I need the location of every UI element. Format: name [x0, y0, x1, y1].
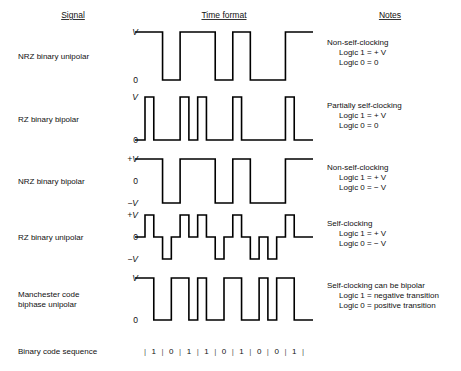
signal-name-nrz-binary-bipolar: NRZ binary bipolar — [18, 177, 85, 186]
bit-value: 0 — [257, 347, 262, 356]
note-rz-binary-unipolar-2: Logic 0 = − V — [339, 239, 387, 248]
note-rz-binary-bipolar-0: Partially self-clocking — [327, 101, 402, 110]
note-manchester-code-biphase-unipolar-0: Self-clocking can be bipolar — [327, 281, 425, 290]
note-manchester-code-biphase-unipolar-1: Logic 1 = negative transition — [339, 291, 439, 300]
bit-value: 1 — [292, 347, 297, 356]
bit-separator: | — [249, 347, 251, 356]
signal-name-manchester-code-biphase-unipolar: biphase unipolar — [18, 300, 77, 309]
bit-separator: | — [267, 347, 269, 356]
note-rz-binary-unipolar-0: Self-clocking — [327, 219, 372, 228]
signal-name-manchester-code-biphase-unipolar: Manchester code — [18, 290, 80, 299]
bit-separator: | — [284, 347, 286, 356]
bit-separator: | — [232, 347, 234, 356]
column-header-time-format: Time format — [201, 10, 247, 20]
note-rz-binary-bipolar-1: Logic 1 = + V — [339, 111, 387, 120]
level-label-manchester-code-biphase-unipolar-1: 0 — [133, 315, 138, 325]
bit-separator: | — [214, 347, 216, 356]
bit-separator: | — [144, 347, 146, 356]
signal-encoding-diagram: Signal Time format Notes NRZ binary unip… — [0, 0, 461, 371]
bit-value: 0 — [222, 347, 227, 356]
binary-code-sequence-label: Binary code sequence — [18, 347, 98, 356]
note-manchester-code-biphase-unipolar-2: Logic 0 = positive transition — [339, 301, 436, 310]
bit-separator: | — [162, 347, 164, 356]
note-nrz-binary-unipolar-2: Logic 0 = 0 — [339, 58, 379, 67]
level-label-rz-binary-unipolar-2: −V — [127, 254, 139, 264]
note-rz-binary-unipolar-1: Logic 1 = + V — [339, 229, 387, 238]
note-nrz-binary-bipolar-0: Non-self-clocking — [327, 163, 388, 172]
level-label-nrz-binary-bipolar-2: −V — [127, 198, 139, 208]
level-label-rz-binary-unipolar-0: +V — [127, 210, 139, 220]
bit-separator: | — [179, 347, 181, 356]
note-nrz-binary-unipolar-1: Logic 1 = + V — [339, 48, 387, 57]
bit-value: 1 — [239, 347, 244, 356]
bit-value: 0 — [274, 347, 279, 356]
signal-name-nrz-binary-unipolar: NRZ binary unipolar — [18, 52, 89, 61]
note-nrz-binary-unipolar-0: Non-self-clocking — [327, 38, 388, 47]
level-label-nrz-binary-unipolar-1: 0 — [133, 75, 138, 85]
column-header-signal: Signal — [61, 10, 85, 20]
note-nrz-binary-bipolar-1: Logic 1 = + V — [339, 173, 387, 182]
bit-separator: | — [302, 347, 304, 356]
note-nrz-binary-bipolar-2: Logic 0 = − V — [339, 183, 387, 192]
bit-separator: | — [197, 347, 199, 356]
bit-value: 1 — [204, 347, 209, 356]
column-header-notes: Notes — [379, 10, 401, 20]
bit-value: 1 — [187, 347, 192, 356]
signal-name-rz-binary-unipolar: RZ binary unipolar — [18, 233, 84, 242]
note-rz-binary-bipolar-2: Logic 0 = 0 — [339, 121, 379, 130]
bit-value: 1 — [152, 347, 157, 356]
signal-name-rz-binary-bipolar: RZ binary bipolar — [18, 115, 79, 124]
bit-value: 0 — [169, 347, 174, 356]
binary-code-sequence-row: Binary code sequence |1|0|1|1|0|1|0|0|1| — [18, 347, 304, 356]
level-label-nrz-binary-bipolar-1: 0 — [133, 176, 138, 186]
